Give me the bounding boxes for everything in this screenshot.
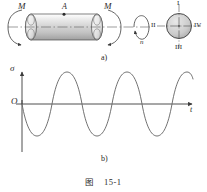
moment-label-left: M <box>18 2 26 11</box>
origin-label: O <box>11 97 18 106</box>
y-axis-label: σ <box>10 64 14 73</box>
x-axis-label: t <box>190 106 192 114</box>
moment-label-right: M <box>104 2 112 11</box>
figure-caption-number: 15-1 <box>104 177 122 187</box>
point-a-marker <box>63 13 66 16</box>
quadrant-label-iii: III <box>175 44 182 51</box>
figure-caption-word: 图 <box>85 177 95 187</box>
panel-b-caption: b) <box>101 154 108 163</box>
panel-a-shaft-diagram: M M A n I II III IV a) <box>0 0 207 66</box>
quadrant-label-i: I <box>177 0 179 7</box>
panel-a-caption: a) <box>101 53 107 62</box>
quadrant-label-iv: IV <box>194 22 201 29</box>
figure-15-1: M M A n I II III IV a) σ O t <box>0 0 207 192</box>
panel-b-stress-plot: σ O t b) <box>0 66 207 170</box>
moment-arrow-right <box>108 10 121 45</box>
point-a-label: A <box>62 3 67 11</box>
figure-caption: 图15-1 <box>0 175 207 187</box>
rotation-speed-label: n <box>140 39 144 46</box>
quadrant-label-ii: II <box>151 22 156 29</box>
moment-arrow-left <box>8 10 22 45</box>
rotation-speed-arrow <box>134 16 149 40</box>
